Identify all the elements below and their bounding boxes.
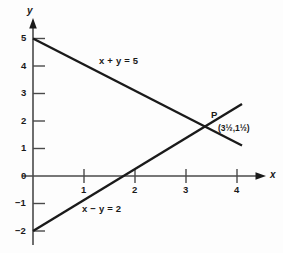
point-coordinates-label: (3½,1½) bbox=[218, 124, 250, 133]
y-tick-label-neg1: −1 bbox=[15, 198, 26, 208]
y-tick-label-2: 2 bbox=[21, 116, 26, 126]
x-axis-arrow-icon bbox=[256, 172, 267, 180]
line-x-minus-y-equals-2 bbox=[33, 104, 242, 231]
x-tick-label-4: 4 bbox=[234, 185, 239, 195]
x-axis-label: x bbox=[270, 170, 276, 180]
equation-label-sum: x + y = 5 bbox=[99, 56, 138, 66]
graph-figure: y x 5 4 3 2 1 0 −1 −2 1 2 3 4 x + y = 5 … bbox=[0, 0, 283, 253]
y-tick-label-4: 4 bbox=[21, 61, 26, 71]
y-tick-label-1: 1 bbox=[21, 143, 26, 153]
y-axis-arrow-icon bbox=[29, 18, 37, 29]
y-tick-label-neg2: −2 bbox=[15, 226, 26, 236]
equation-label-difference: x − y = 2 bbox=[82, 204, 121, 214]
x-tick-label-2: 2 bbox=[132, 185, 137, 195]
y-tick-label-0: 0 bbox=[21, 171, 26, 181]
y-tick-label-3: 3 bbox=[21, 88, 26, 98]
point-label-p: P bbox=[211, 110, 217, 120]
x-tick-label-3: 3 bbox=[183, 185, 188, 195]
x-tick-label-1: 1 bbox=[81, 185, 86, 195]
y-axis-label: y bbox=[27, 6, 33, 16]
y-tick-label-5: 5 bbox=[21, 33, 26, 43]
